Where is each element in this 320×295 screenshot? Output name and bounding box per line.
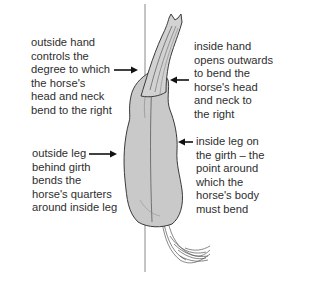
annotation-line: inside leg on	[196, 135, 264, 149]
annotation-line: opens outwards	[194, 54, 273, 68]
annotation-line: point around	[196, 162, 264, 176]
annotation-line: bends the	[32, 174, 117, 188]
annotation-line: the right	[194, 108, 273, 122]
annotation-inside-hand: inside hand opens outwards to bend the h…	[194, 40, 273, 122]
annotation-line: around inside leg	[32, 201, 117, 215]
arrow-inside-leg	[178, 139, 193, 146]
annotation-outside-leg: outside leg behind girth bends the horse…	[32, 147, 117, 215]
annotation-line: to bend the	[194, 67, 273, 81]
annotation-line: horse's quarters	[32, 188, 117, 202]
annotation-line: the girth – the	[196, 149, 264, 163]
annotation-line: degree to which	[31, 63, 112, 77]
annotation-inside-leg: inside leg on the girth – the point arou…	[196, 135, 264, 217]
annotation-line: horse's head	[194, 81, 273, 95]
arrow-inside-hand	[170, 77, 189, 84]
arrow-outside-hand	[114, 67, 138, 74]
annotation-line: bend to the right	[31, 104, 112, 118]
annotation-line: must bend	[196, 203, 264, 217]
annotation-line: outside leg	[32, 147, 117, 161]
annotation-line: which the	[196, 176, 264, 190]
annotation-line: behind girth	[32, 161, 117, 175]
annotation-line: inside hand	[194, 40, 273, 54]
annotation-line: horse's body	[196, 189, 264, 203]
annotation-line: the horse's	[31, 77, 112, 91]
annotation-line: outside hand	[31, 36, 112, 50]
annotation-line: head and neck	[31, 90, 112, 104]
annotation-line: controls the	[31, 50, 112, 64]
annotation-outside-hand: outside hand controls the degree to whic…	[31, 36, 112, 118]
horse-tail	[162, 222, 210, 263]
annotation-line: and neck to	[194, 94, 273, 108]
